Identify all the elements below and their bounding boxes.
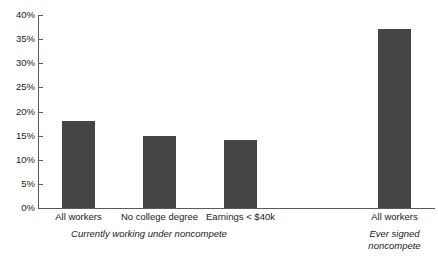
- y-tick-label-wrap: 25%: [0, 82, 35, 92]
- y-tick-label-wrap: 5%: [0, 179, 35, 189]
- y-tick-label: 40%: [1, 10, 35, 20]
- group2-caption-line-2: noncompete: [338, 240, 438, 252]
- group1-caption-line-1: Currently working under noncompete: [18, 228, 280, 240]
- y-tick-label: 10%: [1, 155, 35, 165]
- x-axis-line: [38, 208, 435, 209]
- y-tick-label-wrap: 10%: [0, 155, 35, 165]
- bar-chart: 40%35%30%25%20%15%10%5%0% All workers No…: [0, 0, 438, 262]
- category-label-2: Earnings < $40k: [184, 211, 297, 223]
- y-tick-label-wrap: 35%: [0, 34, 35, 44]
- y-tick-mark: [38, 63, 43, 64]
- bar-0: [62, 121, 95, 208]
- y-tick-mark: [38, 160, 43, 161]
- y-tick-label: 15%: [1, 131, 35, 141]
- y-tick-label-wrap: 15%: [0, 131, 35, 141]
- y-tick-mark: [38, 208, 43, 209]
- y-tick-label: 35%: [1, 34, 35, 44]
- y-tick-mark: [38, 39, 43, 40]
- bar-2: [224, 140, 257, 208]
- bar-1: [143, 136, 176, 208]
- y-tick-mark: [38, 112, 43, 113]
- y-tick-label: 20%: [1, 107, 35, 117]
- y-tick-mark: [38, 87, 43, 88]
- group-caption-ever-signed: Ever signed noncompete: [338, 228, 438, 252]
- category-label-3: All workers: [338, 211, 438, 223]
- y-tick-label: 30%: [1, 58, 35, 68]
- y-tick-label: 25%: [1, 82, 35, 92]
- y-tick-mark: [38, 184, 43, 185]
- y-tick-label-wrap: 20%: [0, 107, 35, 117]
- y-tick-mark: [38, 136, 43, 137]
- plot-area: 40%35%30%25%20%15%10%5%0% All workers No…: [0, 0, 438, 262]
- y-tick-mark: [38, 15, 43, 16]
- bar-3: [378, 29, 411, 208]
- y-tick-label-wrap: 30%: [0, 58, 35, 68]
- group-caption-currently-working: Currently working under noncompete: [18, 228, 280, 240]
- group2-caption-line-1: Ever signed: [338, 228, 438, 240]
- y-tick-label-wrap: 40%: [0, 10, 35, 20]
- y-tick-label: 5%: [1, 179, 35, 189]
